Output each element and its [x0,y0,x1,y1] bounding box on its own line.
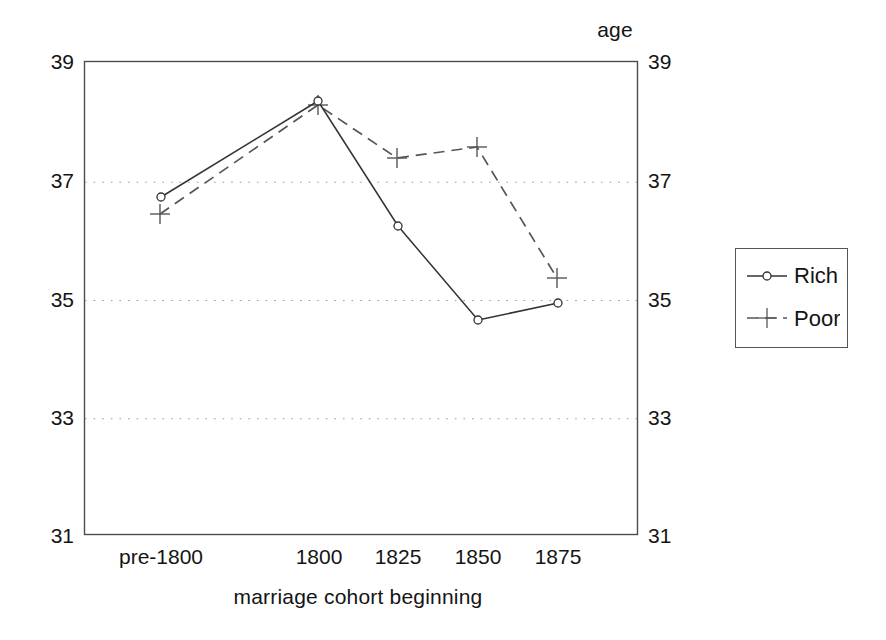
legend-marker-rich [744,265,790,287]
legend-item-poor: Poor [744,305,840,331]
legend-label-rich: Rich [794,263,838,289]
series-rich-markers [157,97,562,324]
series-poor [150,95,567,288]
chart-legend: Rich Poor [735,248,848,348]
chart-figure: age 39 37 35 33 31 39 37 35 33 31 pre-18… [0,0,886,640]
legend-item-rich: Rich [744,263,838,289]
series-poor-line [160,105,557,278]
legend-marker-poor [744,307,790,329]
plot-frame [85,62,638,535]
legend-label-poor: Poor [794,308,840,328]
series-rich [157,97,562,324]
